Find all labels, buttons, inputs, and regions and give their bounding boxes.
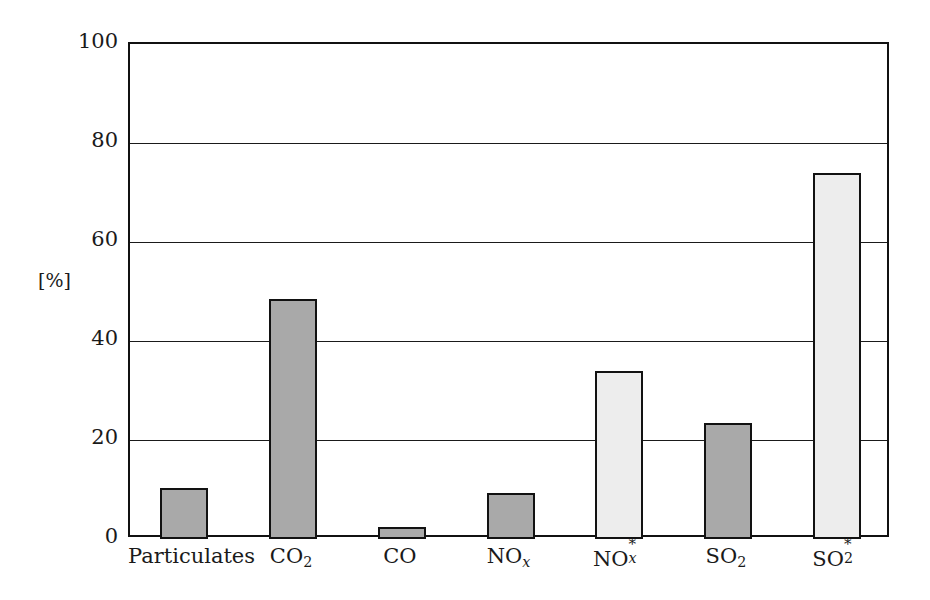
bar-nox — [487, 493, 535, 539]
y-tick-label-40: 40 — [60, 328, 118, 349]
x-label-so2-star: SO*2 — [780, 545, 889, 570]
plot-area — [128, 42, 889, 537]
x-label-subscript: x — [522, 554, 530, 570]
bar-so2 — [704, 423, 752, 539]
y-tick-label-80: 80 — [60, 130, 118, 151]
bar-chart: [%] 020406080100 ParticulatesCO2CONOxNO*… — [0, 0, 930, 600]
x-label-base: CO — [270, 544, 303, 568]
y-tick-label-100: 100 — [60, 31, 118, 52]
x-label-so2: SO2 — [672, 545, 781, 570]
x-label-subscript: 2 — [303, 554, 312, 570]
y-tick-label-0: 0 — [60, 526, 118, 547]
x-label-subscript: 2 — [737, 554, 746, 570]
gridline-60 — [130, 242, 887, 243]
y-tick-label-20: 20 — [60, 427, 118, 448]
gridline-40 — [130, 341, 887, 342]
x-label-sub-sup: *x — [628, 545, 641, 566]
x-label-base: SO — [812, 547, 844, 571]
gridline-20 — [130, 440, 887, 441]
x-label-sub-sup: *2 — [844, 545, 857, 566]
x-label-base: NO — [487, 544, 523, 568]
y-axis-unit-label: [%] — [38, 271, 71, 290]
bar-nox-star — [595, 371, 643, 539]
x-label-base: CO — [383, 544, 416, 568]
y-tick-label-60: 60 — [60, 229, 118, 250]
x-label-nox: NOx — [454, 545, 563, 570]
bar-particulates — [160, 488, 208, 539]
x-label-co2: CO2 — [237, 545, 346, 570]
x-label-nox-star: NO*x — [563, 545, 672, 570]
x-label-base: NO — [593, 547, 629, 571]
bar-co — [378, 527, 426, 539]
x-label-co: CO — [345, 545, 454, 567]
bar-so2-star — [813, 173, 861, 539]
x-label-particulates: Particulates — [128, 545, 237, 567]
bar-co2 — [269, 299, 317, 539]
x-label-base: SO — [706, 544, 738, 568]
gridline-80 — [130, 143, 887, 144]
